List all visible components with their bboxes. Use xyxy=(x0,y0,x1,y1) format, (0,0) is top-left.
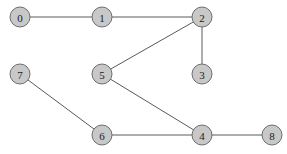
node-label: 4 xyxy=(199,130,205,142)
node-0: 0 xyxy=(10,7,30,27)
node-label: 3 xyxy=(199,69,205,81)
node-5: 5 xyxy=(92,64,112,84)
edge-5-4 xyxy=(102,74,202,135)
node-label: 6 xyxy=(99,130,105,142)
edges-layer xyxy=(20,17,272,135)
node-label: 7 xyxy=(17,69,23,81)
node-1: 1 xyxy=(92,7,112,27)
node-label: 2 xyxy=(199,12,205,24)
graph-diagram: 012345678 xyxy=(0,0,287,154)
node-label: 0 xyxy=(17,12,23,24)
node-4: 4 xyxy=(192,125,212,145)
node-label: 5 xyxy=(99,69,105,81)
node-7: 7 xyxy=(10,64,30,84)
nodes-layer: 012345678 xyxy=(10,7,282,145)
node-3: 3 xyxy=(192,64,212,84)
edge-2-5 xyxy=(102,17,202,74)
node-6: 6 xyxy=(92,125,112,145)
edge-7-6 xyxy=(20,74,102,135)
node-label: 8 xyxy=(269,130,275,142)
node-8: 8 xyxy=(262,125,282,145)
node-label: 1 xyxy=(99,12,105,24)
node-2: 2 xyxy=(192,7,212,27)
